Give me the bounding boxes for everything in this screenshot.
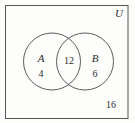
intersection-count: 12 [64,56,74,66]
set-a-only-count: 4 [39,69,44,79]
venn-diagram-figure: U A 4 12 B 6 16 [0,0,135,123]
universal-set-label: U [115,8,123,19]
set-a-label: A [38,53,45,64]
set-b-label: B [92,53,99,64]
set-b-only-count: 6 [93,69,98,79]
outside-sets-count: 16 [106,100,116,110]
